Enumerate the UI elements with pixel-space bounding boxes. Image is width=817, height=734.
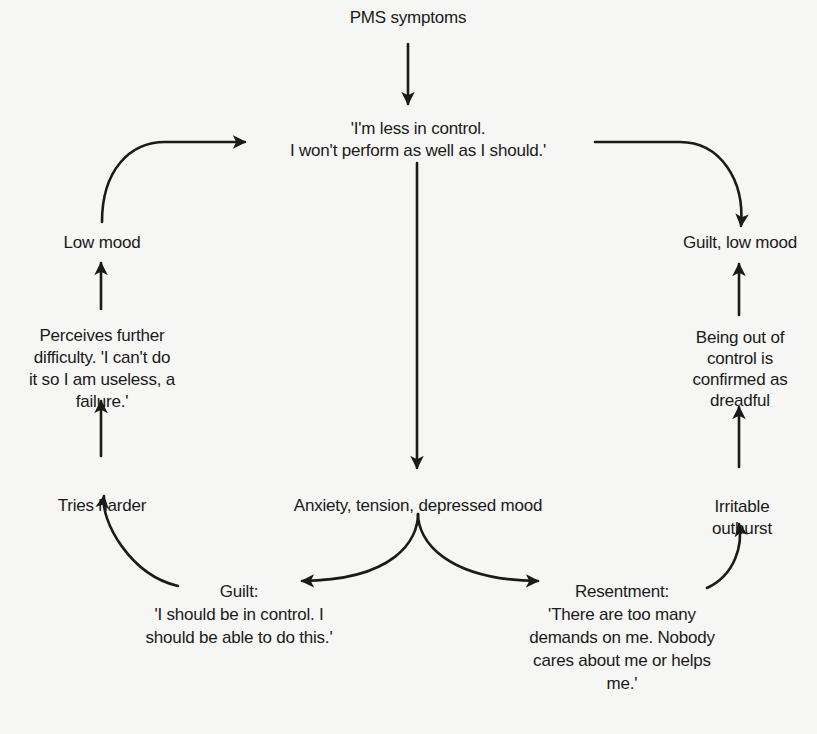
node-text: Being out of bbox=[693, 327, 788, 348]
node-text: outburst bbox=[712, 518, 772, 540]
arrow-anxiety-to-guilt bbox=[302, 514, 418, 581]
arrow-less-control-to-guilt-low-mood bbox=[595, 142, 741, 226]
node-anxiety: Anxiety, tension, depressed mood bbox=[294, 496, 542, 516]
node-less-in-control: 'I'm less in control. I won't perform as… bbox=[290, 118, 546, 162]
node-text: cares about me or helps bbox=[529, 649, 715, 672]
node-text: PMS symptoms bbox=[350, 8, 467, 28]
node-text: me.' bbox=[529, 672, 715, 695]
node-irritable-outburst: Irritable outburst bbox=[712, 496, 772, 540]
node-low-mood: Low mood bbox=[64, 233, 141, 253]
node-pms-symptoms: PMS symptoms bbox=[350, 8, 467, 28]
node-text: control is bbox=[693, 348, 788, 369]
node-text: 'There are too many bbox=[529, 603, 715, 626]
node-text: Perceives further bbox=[29, 325, 175, 347]
node-text: Resentment: bbox=[529, 580, 715, 603]
node-text: 'I'm less in control. bbox=[290, 118, 546, 140]
node-text: Guilt: bbox=[146, 580, 333, 603]
node-text: Tries harder bbox=[58, 496, 147, 516]
node-resentment: Resentment: 'There are too many demands … bbox=[529, 580, 715, 695]
node-text: 'I should be in control. I bbox=[146, 603, 333, 626]
node-text: Low mood bbox=[64, 233, 141, 253]
node-text: demands on me. Nobody bbox=[529, 626, 715, 649]
diagram-canvas: PMS symptoms 'I'm less in control. I won… bbox=[0, 0, 817, 734]
node-text: failure.' bbox=[29, 391, 175, 413]
node-text: confirmed as bbox=[693, 369, 788, 390]
node-guilt-low-mood: Guilt, low mood bbox=[683, 233, 797, 253]
node-text: Guilt, low mood bbox=[683, 233, 797, 253]
node-text: Irritable bbox=[712, 496, 772, 518]
node-tries-harder: Tries harder bbox=[58, 496, 147, 516]
node-text: I won't perform as well as I should.' bbox=[290, 140, 546, 162]
node-text: Anxiety, tension, depressed mood bbox=[294, 496, 542, 516]
arrow-low-mood-to-less-control bbox=[102, 142, 245, 222]
arrow-anxiety-to-resentment bbox=[418, 514, 538, 581]
node-text: should be able to do this.' bbox=[146, 626, 333, 649]
node-text: difficulty. 'I can't do bbox=[29, 347, 175, 369]
node-text: dreadful bbox=[693, 390, 788, 411]
node-text: it so I am useless, a bbox=[29, 369, 175, 391]
node-perceives-difficulty: Perceives further difficulty. 'I can't d… bbox=[29, 325, 175, 413]
node-guilt: Guilt: 'I should be in control. I should… bbox=[146, 580, 333, 649]
node-out-of-control: Being out of control is confirmed as dre… bbox=[693, 327, 788, 411]
